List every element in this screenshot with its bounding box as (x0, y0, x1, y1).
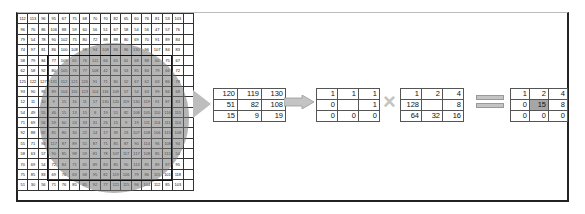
pixel-grid-container: 1121139695677568707082656076815310396768… (17, 13, 194, 200)
grid-cell (183, 65, 194, 75)
grid-row: 121110915161117130120119130119918783 (18, 97, 194, 107)
grid-cell: 95 (38, 86, 48, 96)
grid-cell: 75 (18, 169, 28, 179)
grid-cell: 33 (80, 117, 90, 127)
grid-cell: 119 (142, 97, 152, 107)
grid-row: 125122127131112121126917180526762638678 (18, 76, 194, 86)
matrix-row: 120119130 (214, 89, 286, 100)
grid-cell: 116 (162, 107, 172, 117)
grid-cell: 85 (152, 149, 162, 159)
grid-cell: 30 (28, 180, 38, 190)
grid-cell: 75 (69, 34, 79, 44)
grid-cell: 96 (152, 138, 162, 148)
grid-cell: 46 (49, 107, 59, 117)
grid-cell: 85 (80, 180, 90, 190)
grid-cell: 59 (69, 24, 79, 34)
grid-cell: 115 (162, 128, 172, 138)
grid-cell: 85 (162, 180, 172, 190)
grid-cell: 65 (121, 14, 131, 24)
grid-cell: 71 (49, 180, 59, 190)
grid-cell: 116 (69, 86, 79, 96)
grid-cell: 68 (173, 86, 183, 96)
grid-cell: 61 (121, 55, 131, 65)
grid-cell: 23 (121, 128, 131, 138)
grid-cell: 80 (80, 34, 90, 44)
grid-cell: 92 (90, 180, 100, 190)
binary-matrix: 11101000 (316, 88, 380, 122)
grid-cell: 72 (49, 159, 59, 169)
grid-cell: 68 (131, 55, 141, 65)
grid-cell: 58 (121, 24, 131, 34)
grid-cell (183, 14, 194, 24)
grid-cell: 114 (173, 117, 183, 127)
matrix-cell: 4 (443, 89, 464, 100)
grid-cell (183, 97, 194, 107)
grid-cell: 67 (173, 55, 183, 65)
grid-cell: 119 (111, 169, 121, 179)
grid-cell: 22 (80, 128, 90, 138)
grid-cell: 55 (18, 138, 28, 148)
grid-cell: 79 (131, 169, 141, 179)
grid-cell: 115 (162, 149, 172, 159)
grid-cell: 77 (100, 180, 110, 190)
grid-cell: 94 (173, 138, 183, 148)
grid-cell: 69 (28, 159, 38, 169)
matrix-cell: 130 (262, 89, 286, 100)
grid-cell: 56 (38, 117, 48, 127)
grid-cell: 131 (49, 76, 59, 86)
grid-cell: 56 (142, 24, 152, 34)
grid-cell: 94 (38, 138, 48, 148)
grid-cell: 106 (121, 169, 131, 179)
grid-cell: 15 (59, 107, 69, 117)
grid-cell: 105 (142, 107, 152, 117)
grid-cell: 66 (162, 65, 172, 75)
grid-cell: 70 (90, 14, 100, 24)
grid-cell: 81 (49, 128, 59, 138)
grid-cell: 96 (131, 180, 141, 190)
grid-cell: 109 (111, 86, 121, 96)
grid-cell: 62 (18, 65, 28, 75)
grid-cell: 95 (90, 169, 100, 179)
grid-cell (183, 34, 194, 44)
grid-cell: 58 (18, 55, 28, 65)
grid-cell: 84 (162, 45, 172, 55)
grid-cell: 19 (100, 107, 110, 117)
grid-cell: 62 (142, 76, 152, 86)
grid-cell: 106 (152, 128, 162, 138)
grid-cell (183, 138, 194, 148)
grid-cell: 96 (38, 14, 48, 24)
grid-cell: 54 (131, 86, 141, 96)
grid-cell: 83 (173, 45, 183, 55)
grid-cell: 88 (142, 55, 152, 65)
grid-cell: 14 (90, 128, 100, 138)
grid-cell: 68 (80, 169, 90, 179)
grid-cell: 51 (80, 138, 90, 148)
matrix-cell: 82 (238, 100, 262, 111)
grid-cell: 95 (49, 14, 59, 24)
grid-cell: 114 (152, 117, 162, 127)
grid-cell: 86 (162, 76, 172, 86)
grid-cell: 111 (90, 55, 100, 65)
grid-cell: 80 (49, 65, 59, 75)
grid-cell: 85 (111, 159, 121, 169)
grid-cell: 85 (69, 180, 79, 190)
grid-cell: 96 (18, 24, 28, 34)
grid-cell: 70 (18, 159, 28, 169)
grid-cell: 126 (80, 76, 90, 86)
matrix-cell: 0 (359, 111, 380, 122)
grid-cell: 93 (18, 86, 28, 96)
grid-cell: 53 (121, 65, 131, 75)
matrix-cell: 108 (262, 100, 286, 111)
grid-cell: 89 (69, 138, 79, 148)
grid-cell: 76 (173, 24, 183, 34)
matrix-cell: 19 (262, 111, 286, 122)
grid-cell (183, 128, 194, 138)
grid-cell: 56 (90, 24, 100, 34)
grid-row: 6258928010578771084286538584796672 (18, 65, 194, 75)
multiply-icon: × (383, 91, 396, 113)
matrix-row: 124 (401, 89, 464, 100)
matrix-cell: 1 (338, 89, 359, 100)
matrix-cell: 32 (422, 111, 443, 122)
matrix-row: 15919 (214, 111, 286, 122)
grid-cell: 11 (28, 97, 38, 107)
